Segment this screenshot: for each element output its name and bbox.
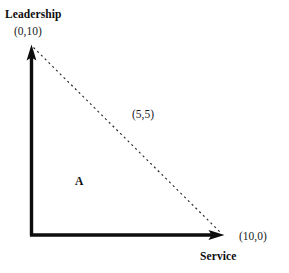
y-axis-title: Leadership bbox=[5, 9, 62, 21]
x-intercept-label: (10,0) bbox=[239, 231, 267, 243]
constraint-line bbox=[34, 48, 222, 234]
x-axis bbox=[30, 230, 225, 240]
region-label-a: A bbox=[75, 176, 83, 188]
midpoint-label: (5,5) bbox=[132, 109, 154, 121]
y-intercept-label: (0,10) bbox=[14, 26, 42, 38]
x-axis-title: Service bbox=[200, 251, 236, 263]
diagram-canvas: Leadership (0,10) (5,5) A (10,0) Service bbox=[0, 0, 289, 273]
y-axis bbox=[27, 45, 37, 237]
